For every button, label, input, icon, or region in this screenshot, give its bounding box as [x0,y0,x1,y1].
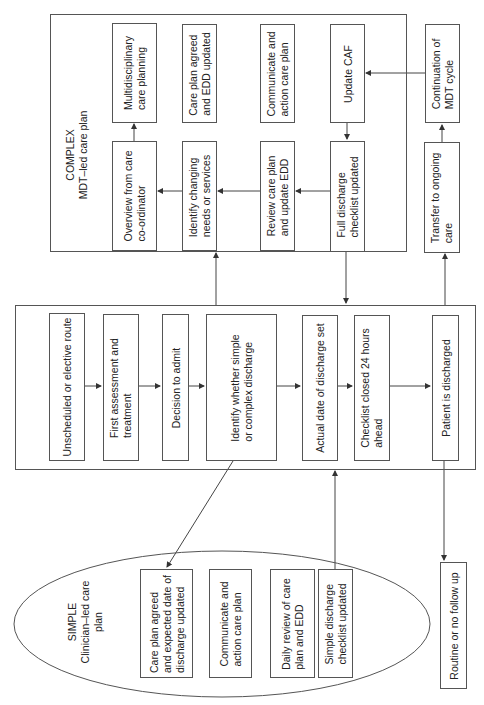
node-transfer-ongoing-care: Transfer to ongoing care [424,142,460,253]
node-label: Update CAF [341,45,354,103]
node-overview-care-coordinator: Overview from care co-ordinator [112,141,157,251]
node-care-plan-agreed-edd: Care plan agreed and EDD updated [182,24,217,123]
node-label: Routine or no follow up [447,572,460,679]
node-label: Checklist closed 24 hours ahead [359,328,385,448]
node-label: First assessment and treatment [108,338,134,438]
node-label: Transfer to ongoing care [429,152,455,243]
node-label: Decision to admit [169,347,182,428]
node-identify-changing-needs: Identify changing needs or services [182,141,217,251]
discharge-planning-diagram: COMPLEX MDT–led care plan Multidisciplin… [0,0,484,705]
node-label: Multidisciplinary care planning [122,36,148,110]
node-daily-review: Daily review of care plan and EDD [270,569,315,678]
node-label: Communicate and action care plan [265,31,291,116]
node-label: Identify changing needs or services [187,155,213,237]
node-simple-communicate: Communicate and action care plan [209,569,252,678]
node-label: Care plan agreed and EDD updated [187,32,213,115]
node-label: Communicate and action care plan [218,581,244,666]
node-label: Unscheduled or elective route [61,318,74,457]
complex-title: COMPLEX MDT–led care plan [64,111,90,200]
node-checklist-closed-24h: Checklist closed 24 hours ahead [354,315,390,461]
node-routine-no-follow-up: Routine or no follow up [440,562,467,689]
node-update-caf: Update CAF [330,24,365,123]
node-simple-care-plan-agreed: Care plan agreed and expected date of di… [140,569,193,678]
node-label: Actual date of discharge set [314,323,327,453]
node-multidisciplinary-care-planning: Multidisciplinary care planning [112,23,157,123]
node-label: Care plan agreed and expected date of di… [147,574,186,672]
node-label: Identify whether simple or complex disch… [229,334,255,441]
node-patient-discharged: Patient is discharged [432,315,459,461]
node-simple-discharge-checklist: Simple discharge checklist updated [318,569,353,678]
node-identify-simple-complex: Identify whether simple or complex disch… [206,314,277,461]
node-review-care-plan-edd: Review care plan and update EDD [260,141,295,251]
node-actual-date-discharge: Actual date of discharge set [302,315,338,461]
node-label: Full discharge checklist updated [335,156,361,237]
node-label: Overview from care co-ordinator [122,150,148,241]
node-label: Daily review of care plan and EDD [280,578,306,670]
node-continuation-mdt-cycle: Continuation of MDT cycle [425,24,460,123]
node-label: Patient is discharged [439,339,452,436]
simple-title: SIMPLE Clinician–led care plan [66,581,105,664]
node-unscheduled-elective-route: Unscheduled or elective route [49,313,85,461]
node-first-assessment-treatment: First assessment and treatment [103,314,139,461]
node-label: Simple discharge checklist updated [323,583,349,664]
node-decision-to-admit: Decision to admit [162,314,189,461]
node-label: Review care plan and update EDD [265,156,291,237]
node-communicate-action-care-plan: Communicate and action care plan [260,24,295,123]
node-full-discharge-checklist: Full discharge checklist updated [330,141,365,252]
node-label: Continuation of MDT cycle [430,38,456,109]
